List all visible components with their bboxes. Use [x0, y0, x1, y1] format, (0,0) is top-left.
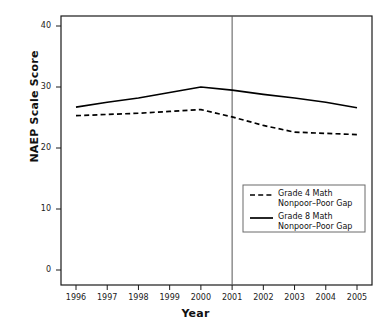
x-tick-label: 2003: [278, 293, 312, 302]
series-lines: [76, 87, 357, 135]
y-tick-label: 20: [27, 143, 51, 152]
x-tick-label: 2001: [215, 293, 249, 302]
chart-figure: NAEP Scale Score Year 010203040 19961997…: [0, 0, 391, 330]
plot-area: [0, 0, 391, 330]
y-tick-label: 10: [27, 204, 51, 213]
y-tick-label: 30: [27, 82, 51, 91]
y-tick-label: 0: [27, 265, 51, 274]
y-tick-label: 40: [27, 21, 51, 30]
x-tick-label: 1998: [121, 293, 155, 302]
legend-entry-label: Nonpoor–Poor Gap: [278, 199, 352, 208]
x-tick-label: 2004: [309, 293, 343, 302]
axes-frame: [56, 16, 372, 290]
x-tick-label: 1997: [90, 293, 124, 302]
x-tick-label: 1996: [59, 293, 93, 302]
x-tick-label: 2002: [246, 293, 280, 302]
legend-entry-label: Grade 4 Math: [278, 189, 333, 198]
x-tick-label: 2000: [184, 293, 218, 302]
legend-entry-label: Grade 8 Math: [278, 212, 333, 221]
x-tick-label: 2005: [340, 293, 374, 302]
legend-entry-label: Nonpoor–Poor Gap: [278, 222, 352, 231]
x-tick-label: 1999: [153, 293, 187, 302]
